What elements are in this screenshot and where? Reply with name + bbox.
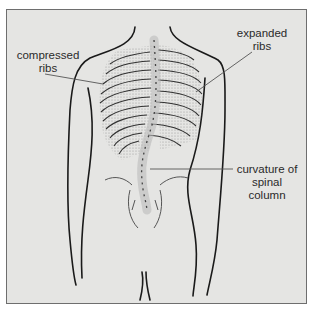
label-compressed-ribs: compressed ribs	[10, 49, 86, 75]
left-arm-inner	[81, 88, 92, 278]
label-expanded-ribs-line2: ribs	[232, 40, 292, 53]
label-curvature-line2: spinal column	[232, 176, 302, 202]
label-compressed-ribs-line2: ribs	[10, 62, 86, 75]
label-curvature-line1: curvature of	[232, 163, 302, 176]
label-curvature: curvature of spinal column	[232, 163, 302, 202]
label-expanded-ribs-line1: expanded	[232, 27, 292, 40]
buttocks-cleft	[140, 272, 150, 300]
leader-expanded-ribs	[196, 52, 252, 92]
label-expanded-ribs: expanded ribs	[232, 27, 292, 53]
label-compressed-ribs-line1: compressed	[10, 49, 86, 62]
